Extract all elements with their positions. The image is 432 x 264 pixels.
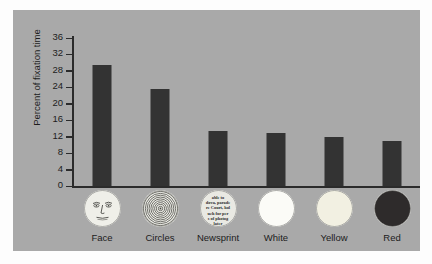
category-group: Yellow [305,190,363,243]
yellow-circle-icon [316,190,353,227]
y-tick-label: 4 [37,163,63,174]
y-tick-mark [66,169,72,171]
bar [93,65,112,186]
white-circle-icon [258,190,295,227]
bar-slot [73,38,131,186]
category-label: Face [73,232,131,243]
category-group: Red [363,190,421,243]
newsprint-text: able todova, paradere Court, holuch for … [200,190,237,227]
y-axis-title: Percent of fixation time [31,8,42,148]
x-axis-line [72,186,420,188]
y-tick-label: 12 [37,130,63,141]
y-tick-mark [66,54,72,56]
category-group: able todova, paradere Court, holuch for … [189,190,247,243]
concentric-circles-icon [142,190,179,227]
bar-slot [189,38,247,186]
y-tick-mark [66,186,72,188]
y-tick-label: 8 [37,146,63,157]
bar [383,141,402,186]
category-label: White [247,232,305,243]
y-tick-mark [66,70,72,72]
bar [267,133,286,186]
y-tick-mark [66,136,72,138]
red-circle-icon [374,190,411,227]
newsprint-circle-icon: able todova, paradere Court, holuch for … [200,190,237,227]
y-tick-mark [66,87,72,89]
bar-slot [247,38,305,186]
category-group: White [247,190,305,243]
bar [325,137,344,186]
category-label: Circles [131,232,189,243]
category-group: Face [73,190,131,243]
y-tick-label: 24 [37,80,63,91]
y-tick-mark [66,38,72,40]
category-label: Red [363,232,421,243]
figure-container: Percent of fixation time 048121620242832… [0,0,432,264]
y-tick-label: 28 [37,64,63,75]
y-tick-label: 32 [37,47,63,58]
y-tick-mark [66,103,72,105]
y-tick-mark [66,153,72,155]
category-label: Newsprint [189,232,247,243]
category-group: Circles [131,190,189,243]
bar-slot [363,38,421,186]
y-tick-label: 16 [37,113,63,124]
chart-panel: Percent of fixation time 048121620242832… [13,10,420,251]
category-label: Yellow [305,232,363,243]
bar-slot [305,38,363,186]
y-tick-mark [66,120,72,122]
y-tick-label: 36 [37,31,63,42]
y-tick-label: 0 [37,179,63,190]
bar-slot [131,38,189,186]
y-tick-label: 20 [37,97,63,108]
bar [151,89,170,186]
bar [209,131,228,187]
face-circle-icon [84,190,121,227]
